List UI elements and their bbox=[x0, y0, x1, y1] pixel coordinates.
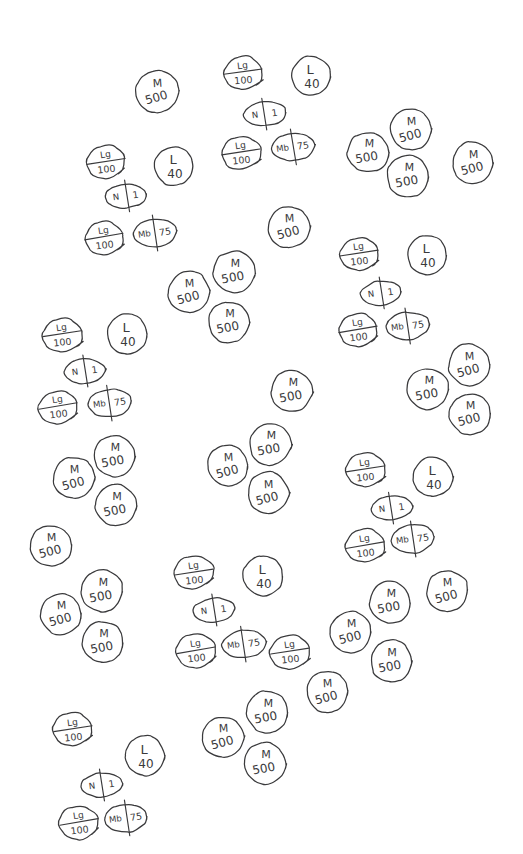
token-right-label: 75 bbox=[411, 318, 425, 331]
token-top-label: L bbox=[422, 241, 430, 256]
token-top-label: M bbox=[98, 576, 108, 589]
token-l40[interactable]: L40 bbox=[243, 556, 283, 596]
token-lg100[interactable]: Lg100 bbox=[51, 711, 93, 747]
token-m500[interactable]: M500 bbox=[82, 621, 124, 663]
token-m500[interactable]: M500 bbox=[329, 611, 372, 654]
token-m500[interactable]: M500 bbox=[248, 471, 291, 515]
token-lg100[interactable]: Lg100 bbox=[174, 632, 217, 670]
token-m500[interactable]: M500 bbox=[387, 154, 430, 197]
token-mb75[interactable]: Mb75 bbox=[220, 624, 268, 664]
token-m500[interactable]: M500 bbox=[94, 435, 137, 478]
token-n1[interactable]: N1 bbox=[63, 353, 108, 389]
token-lg100[interactable]: Lg100 bbox=[36, 390, 78, 426]
token-lg100[interactable]: Lg100 bbox=[338, 237, 379, 272]
token-m500[interactable]: M500 bbox=[371, 639, 412, 682]
token-top-label: M bbox=[110, 441, 120, 454]
token-lg100[interactable]: Lg100 bbox=[41, 317, 84, 354]
token-m500[interactable]: M500 bbox=[167, 270, 212, 314]
token-m500[interactable]: M500 bbox=[249, 423, 293, 466]
token-m500[interactable]: M500 bbox=[267, 206, 312, 249]
token-lg100[interactable]: Lg100 bbox=[343, 527, 386, 564]
token-m500[interactable]: M500 bbox=[30, 525, 73, 567]
token-top-label: M bbox=[266, 429, 276, 442]
token-top-label: Lg bbox=[66, 717, 78, 728]
token-m500[interactable]: M500 bbox=[389, 108, 433, 151]
token-right-label: 75 bbox=[416, 531, 430, 544]
token-mb75[interactable]: Mb75 bbox=[103, 798, 148, 838]
token-top-label: Lg bbox=[189, 638, 201, 650]
token-lg100[interactable]: Lg100 bbox=[337, 312, 378, 349]
token-lg100[interactable]: Lg100 bbox=[57, 805, 100, 842]
token-m500[interactable]: M500 bbox=[447, 343, 491, 387]
token-n1[interactable]: N1 bbox=[370, 490, 415, 526]
token-top-label: M bbox=[386, 587, 396, 600]
sketch-canvas: M500Lg100L40N1Lg100Mb75M500M500M500M500L… bbox=[0, 0, 523, 854]
token-top-label: M bbox=[261, 748, 271, 761]
token-lg100[interactable]: Lg100 bbox=[221, 135, 263, 170]
token-bottom-label: 40 bbox=[304, 77, 319, 91]
token-l40[interactable]: L40 bbox=[154, 147, 193, 185]
token-m500[interactable]: M500 bbox=[207, 444, 249, 487]
token-m500[interactable]: M500 bbox=[212, 250, 256, 294]
token-m500[interactable]: M500 bbox=[39, 593, 82, 636]
token-lg100[interactable]: Lg100 bbox=[83, 219, 125, 256]
token-l40[interactable]: L40 bbox=[292, 56, 331, 95]
token-top-label: Lg bbox=[358, 533, 370, 545]
token-top-label: Lg bbox=[283, 639, 295, 650]
token-lg100[interactable]: Lg100 bbox=[173, 555, 216, 591]
token-m500[interactable]: M500 bbox=[244, 742, 287, 785]
token-m500[interactable]: M500 bbox=[80, 569, 123, 613]
token-mb75[interactable]: Mb75 bbox=[132, 213, 179, 253]
token-top-label: L bbox=[122, 320, 130, 335]
token-m500[interactable]: M500 bbox=[369, 580, 411, 623]
token-left-label: Mb bbox=[226, 639, 240, 651]
token-top-label: M bbox=[225, 307, 235, 320]
token-m500[interactable]: M500 bbox=[201, 716, 246, 758]
token-m500[interactable]: M500 bbox=[134, 69, 180, 114]
token-bottom-label: 100 bbox=[234, 74, 253, 87]
token-n1[interactable]: N1 bbox=[359, 275, 403, 310]
token-top-label: M bbox=[387, 646, 397, 659]
token-m500[interactable]: M500 bbox=[270, 370, 314, 412]
token-lg100[interactable]: Lg100 bbox=[268, 634, 311, 671]
token-m500[interactable]: M500 bbox=[95, 484, 138, 526]
token-m500[interactable]: M500 bbox=[426, 570, 469, 613]
token-top-label: Lg bbox=[237, 60, 249, 71]
token-bottom-label: 40 bbox=[138, 757, 153, 771]
token-n1[interactable]: N1 bbox=[104, 178, 148, 213]
token-mb75[interactable]: Mb75 bbox=[385, 306, 432, 346]
token-m500[interactable]: M500 bbox=[406, 368, 449, 410]
token-m500[interactable]: M500 bbox=[52, 456, 96, 499]
token-l40[interactable]: L40 bbox=[408, 236, 447, 275]
token-bottom-label: 100 bbox=[356, 546, 375, 559]
token-n1[interactable]: N1 bbox=[242, 96, 287, 132]
token-m500[interactable]: M500 bbox=[306, 671, 349, 714]
token-top-label: M bbox=[230, 257, 240, 270]
token-bottom-label: 100 bbox=[49, 407, 68, 420]
token-top-label: M bbox=[404, 161, 414, 174]
token-l40[interactable]: L40 bbox=[108, 314, 148, 354]
token-l40[interactable]: L40 bbox=[125, 735, 165, 776]
token-mb75[interactable]: Mb75 bbox=[86, 383, 133, 423]
token-m500[interactable]: M500 bbox=[452, 141, 494, 184]
token-mb75[interactable]: Mb75 bbox=[270, 127, 318, 167]
token-lg100[interactable]: Lg100 bbox=[85, 144, 126, 180]
token-m500[interactable]: M500 bbox=[209, 302, 251, 343]
token-n1[interactable]: N1 bbox=[192, 592, 237, 628]
token-top-label: L bbox=[140, 742, 148, 757]
token-n1[interactable]: N1 bbox=[80, 767, 125, 803]
token-top-label: Lg bbox=[358, 457, 370, 468]
token-m500[interactable]: M500 bbox=[448, 393, 491, 435]
token-top-label: L bbox=[258, 562, 266, 577]
token-right-label: 75 bbox=[247, 636, 261, 649]
token-m500[interactable]: M500 bbox=[346, 132, 390, 173]
token-m500[interactable]: M500 bbox=[246, 690, 289, 734]
token-mb75[interactable]: Mb75 bbox=[390, 519, 436, 559]
token-top-label: M bbox=[99, 627, 109, 640]
token-top-label: L bbox=[169, 152, 177, 167]
token-l40[interactable]: L40 bbox=[413, 457, 454, 496]
token-right-label: 75 bbox=[113, 395, 127, 408]
token-lg100[interactable]: Lg100 bbox=[223, 55, 264, 91]
token-top-label: Lg bbox=[234, 140, 246, 151]
token-lg100[interactable]: Lg100 bbox=[344, 451, 386, 488]
